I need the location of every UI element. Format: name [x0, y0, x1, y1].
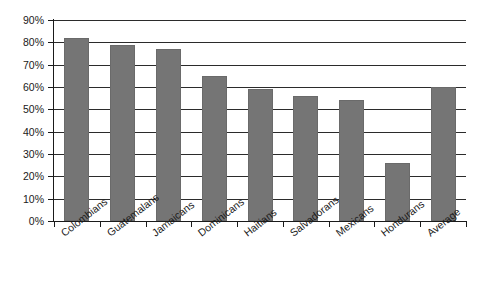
bar-guatemalans [110, 45, 135, 221]
bar-salvadorans [293, 96, 318, 221]
y-tick-mark [48, 132, 53, 133]
y-tick-label: 20% [0, 171, 44, 182]
y-axis-line [53, 19, 54, 222]
bar-average [431, 87, 456, 221]
y-tick-label: 60% [0, 82, 44, 93]
x-tick-mark [237, 221, 238, 227]
y-tick-label: 30% [0, 149, 44, 160]
y-tick-label: 10% [0, 193, 44, 204]
y-tick-mark [48, 109, 53, 110]
x-tick-mark [466, 221, 467, 227]
x-tick-mark [420, 221, 421, 227]
bar-chart: 0%10%20%30%40%50%60%70%80%90% Colombians… [0, 0, 482, 282]
y-tick-mark [48, 154, 53, 155]
x-tick-mark [100, 221, 101, 227]
gridline-80 [54, 42, 466, 43]
x-tick-mark [329, 221, 330, 227]
y-tick-mark [48, 87, 53, 88]
y-tick-label: 40% [0, 126, 44, 137]
bar-colombians [64, 38, 89, 221]
y-tick-mark [48, 20, 53, 21]
x-tick-mark [191, 221, 192, 227]
y-tick-label: 0% [0, 216, 44, 227]
x-tick-mark [54, 221, 55, 227]
y-tick-label: 70% [0, 59, 44, 70]
y-tick-label: 90% [0, 15, 44, 26]
plot-area [54, 20, 466, 221]
y-tick-label: 80% [0, 37, 44, 48]
y-tick-mark [48, 176, 53, 177]
gridline-90 [54, 20, 466, 21]
y-tick-mark [48, 42, 53, 43]
x-tick-mark [146, 221, 147, 227]
y-tick-mark [48, 221, 53, 222]
bar-jamaicans [156, 49, 181, 221]
x-tick-mark [283, 221, 284, 227]
bar-haitians [248, 89, 273, 221]
bar-dominicans [202, 76, 227, 221]
y-tick-mark [48, 65, 53, 66]
y-tick-label: 50% [0, 104, 44, 115]
x-tick-mark [374, 221, 375, 227]
y-tick-mark [48, 199, 53, 200]
bar-mexicans [339, 100, 364, 221]
